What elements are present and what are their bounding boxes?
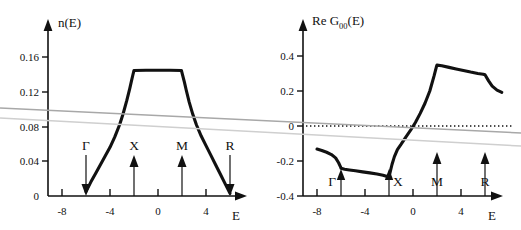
scan-line-lower (0, 118, 521, 146)
figure-container: 0.16 0.12 0.08 0.04 0 -8 -4 0 4 n(E) E (0, 0, 521, 230)
scan-line-upper (0, 108, 521, 133)
scan-artifact-overlay (0, 0, 521, 230)
